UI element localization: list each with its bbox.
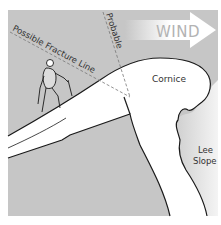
- cornice-label: Cornice: [152, 74, 186, 84]
- slope-label: Slope: [193, 156, 217, 166]
- wind-label: WIND: [156, 23, 200, 41]
- cornice-diagram: WIND Possible Fracture Line Probable Cor…: [0, 0, 221, 225]
- lee-label: Lee: [198, 145, 213, 155]
